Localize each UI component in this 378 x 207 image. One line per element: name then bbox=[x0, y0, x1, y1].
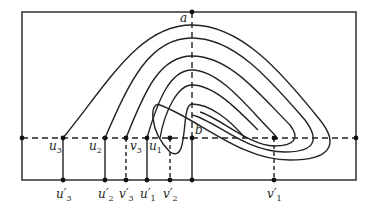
label-v3: v3 bbox=[130, 139, 142, 155]
label-b: b bbox=[195, 123, 203, 137]
curve-4 bbox=[147, 70, 277, 139]
node-a bbox=[190, 10, 195, 15]
label-v1p: v′1 bbox=[267, 187, 282, 203]
label-u2: u2 bbox=[89, 139, 102, 155]
label-u2p: u′2 bbox=[98, 187, 114, 203]
curve-2 bbox=[105, 38, 313, 152]
label-v3p: v′3 bbox=[119, 187, 134, 203]
label-a: a bbox=[180, 11, 187, 25]
knot-diagram: a b u3u2v3u1u′3u′2v′3u′1v′2v′1 bbox=[0, 0, 378, 207]
label-v2p: v′2 bbox=[163, 187, 178, 203]
curve-1 bbox=[63, 25, 330, 160]
node-b bbox=[190, 136, 195, 141]
label-u3p: u′3 bbox=[56, 187, 72, 203]
label-u3: u3 bbox=[49, 139, 62, 155]
label-u1: u1 bbox=[149, 139, 162, 155]
label-u1p: u′1 bbox=[140, 187, 156, 203]
frame-rectangle bbox=[22, 12, 356, 180]
